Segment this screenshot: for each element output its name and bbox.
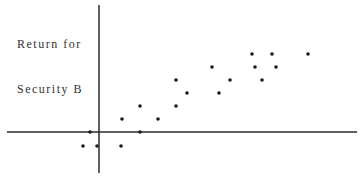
data-point [156,117,160,121]
data-point [119,144,123,148]
data-point [95,144,99,148]
data-point [138,130,142,134]
data-point [250,52,254,56]
data-point [306,52,310,56]
data-point [88,130,92,134]
data-point [260,78,264,82]
y-axis-label-line-2: Security B [17,82,83,97]
data-point [228,78,232,82]
data-point [120,117,124,121]
data-point [174,78,178,82]
data-point [210,65,214,69]
data-point [253,65,257,69]
y-axis-label: Return for Security B [17,7,83,112]
data-point [138,104,142,108]
data-point [174,104,178,108]
data-points [81,52,310,148]
data-point [81,144,85,148]
x-axis-label-line-1: Return for [277,175,343,177]
x-axis-label: Return for Security A [277,145,343,177]
data-point [217,91,221,95]
data-point [270,52,274,56]
data-point [185,91,189,95]
y-axis-label-line-1: Return for [17,37,83,52]
data-point [274,65,278,69]
